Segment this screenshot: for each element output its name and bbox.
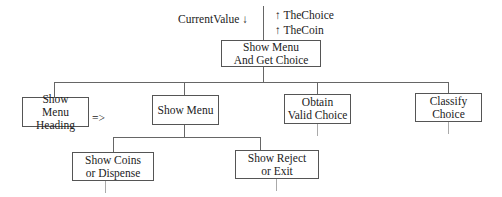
node-label: Choice (432, 108, 465, 121)
node-label: Show Menu (243, 41, 299, 54)
continuation-arrow-icon: => (92, 112, 105, 125)
connector-stub (317, 124, 318, 136)
node-label: Show Coins (85, 154, 141, 167)
node-classify-choice: Classify Choice (415, 93, 482, 122)
node-show-menu-heading: Show Menu Heading (22, 97, 89, 127)
connector (113, 137, 114, 152)
node-label: And Get Choice (234, 54, 309, 67)
node-obtain-valid-choice: Obtain Valid Choice (284, 94, 351, 124)
connector-stub (105, 181, 106, 193)
node-label: Show (42, 93, 68, 106)
param-current-value: CurrentValue ↓ (178, 13, 248, 26)
connector (448, 82, 449, 93)
node-label: Show Reject (248, 152, 306, 165)
node-show-menu: Show Menu (152, 95, 219, 125)
connector (263, 67, 264, 82)
down-arrow-icon: ↓ (242, 13, 248, 25)
param-the-coin: ↑ TheCoin (275, 24, 324, 37)
structure-chart: CurrentValue ↓ ↑ TheChoice ↑ TheCoin Sho… (0, 0, 502, 197)
connector (184, 125, 185, 137)
param-the-choice: ↑ TheChoice (275, 9, 334, 22)
node-label: Classify (430, 95, 468, 108)
connector (54, 82, 449, 83)
connector (260, 137, 261, 150)
node-label: or Exit (261, 165, 293, 178)
connector (184, 82, 185, 95)
node-show-reject-or-exit: Show Reject or Exit (235, 150, 319, 179)
node-label: or Dispense (86, 167, 141, 180)
node-label: Show Menu (158, 104, 214, 117)
node-label: Obtain (302, 96, 333, 109)
up-arrow-icon: ↑ (275, 9, 281, 21)
connector (317, 82, 318, 94)
connector (113, 137, 261, 138)
node-show-menu-and-get-choice: Show Menu And Get Choice (221, 40, 321, 67)
up-arrow-icon: ↑ (275, 24, 281, 36)
node-label: Menu Heading (23, 106, 88, 132)
node-show-coins-or-dispense: Show Coins or Dispense (72, 152, 154, 181)
connector-stub (276, 179, 277, 191)
connector-stub (448, 122, 449, 134)
node-label: Valid Choice (288, 109, 348, 122)
param-separator (263, 6, 264, 40)
